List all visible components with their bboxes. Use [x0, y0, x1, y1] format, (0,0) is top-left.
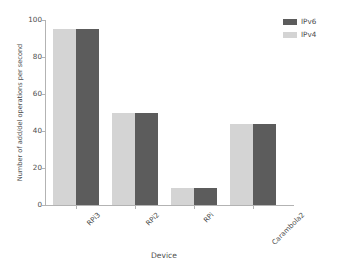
legend-item-ipv6[interactable]: IPv6	[283, 16, 335, 27]
legend: IPv6IPv4	[283, 16, 335, 42]
y-axis-tick-mark	[42, 94, 45, 95]
bar-chart-figure: Number of add/del operations per second …	[0, 0, 339, 270]
x-axis-tick-mark	[253, 206, 254, 209]
plot-area	[46, 20, 282, 205]
legend-swatch-icon	[283, 32, 297, 38]
legend-swatch-icon	[283, 19, 297, 25]
legend-item-ipv4[interactable]: IPv4	[283, 29, 335, 40]
bar-rpi3-ipv6	[76, 29, 99, 205]
y-axis-tick-mark	[42, 168, 45, 169]
y-axis-tick-mark	[42, 20, 45, 21]
legend-label: IPv4	[301, 30, 316, 39]
bar-carambola2-ipv6	[253, 124, 276, 205]
y-axis-tick-mark	[42, 57, 45, 58]
x-axis-tick-label-rpi: RPi	[202, 211, 216, 225]
x-axis-tick-mark	[135, 206, 136, 209]
y-axis-tick-label: 100	[10, 16, 42, 24]
y-axis-tick-label: 60	[10, 90, 42, 98]
y-axis-tick-labels: 100806040200	[10, 0, 42, 270]
bar-rpi2-ipv4	[112, 113, 135, 206]
y-axis-tick-label: 80	[10, 53, 42, 61]
bar-rpi2-ipv6	[135, 113, 158, 206]
y-axis-tick-mark	[42, 205, 45, 206]
legend-label: IPv6	[301, 17, 316, 26]
x-axis-tick-label-rpi2: RPi2	[144, 211, 161, 228]
y-axis-tick-label: 0	[10, 201, 42, 209]
x-axis-tick-label-rpi3: RPi3	[85, 211, 102, 228]
x-axis-title: Device	[46, 251, 282, 260]
bar-rpi-ipv4	[171, 188, 194, 205]
y-axis-tick-label: 20	[10, 164, 42, 172]
x-axis-tick-mark	[194, 206, 195, 209]
x-axis-tick-mark	[76, 206, 77, 209]
bar-rpi-ipv6	[194, 188, 217, 205]
bar-rpi3-ipv4	[53, 29, 76, 205]
y-axis-tick-mark	[42, 131, 45, 132]
x-axis-tick-label-carambola2: Carambola2	[270, 211, 306, 247]
y-axis-tick-label: 40	[10, 127, 42, 135]
bar-carambola2-ipv4	[230, 124, 253, 205]
x-axis-line	[42, 205, 294, 206]
